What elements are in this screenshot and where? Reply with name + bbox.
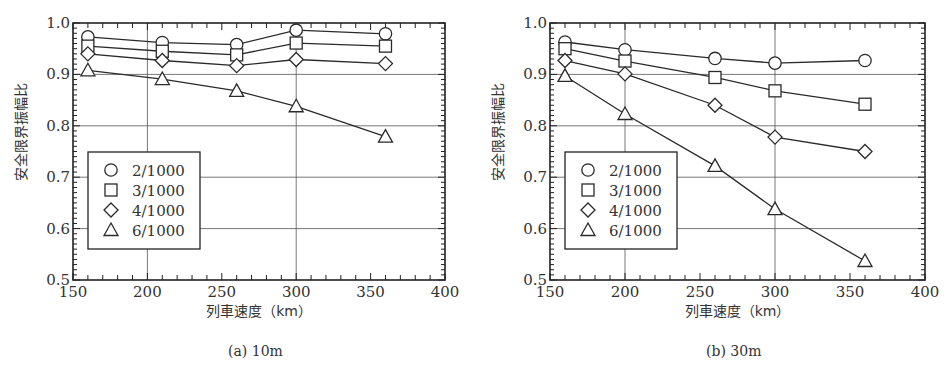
legend-label: 4/1000 [132,202,185,220]
circle-marker [619,44,631,56]
caption-b: (b) 30m [706,343,761,359]
triangle-marker [81,63,95,76]
diamond-marker [289,52,303,66]
y-tick-label: 0.7 [523,168,547,186]
diamond-marker [708,98,722,112]
diamond-marker [378,57,392,71]
triangle-marker [378,130,392,143]
chart-panel-b: 1502002503003504000.50.60.70.80.91.0列車速度… [476,0,951,384]
diamond-marker [768,130,782,144]
y-tick-label: 1.0 [46,14,70,32]
y-tick-label: 0.5 [523,271,547,289]
square-marker [709,71,721,83]
legend-label: 3/1000 [609,182,662,200]
y-tick-label: 0.8 [523,117,547,135]
x-tick-label: 200 [611,283,640,301]
y-tick-label: 0.5 [46,271,70,289]
x-tick-label: 400 [911,283,940,301]
circle-marker [859,54,871,66]
legend-square-icon [105,184,117,196]
series-2-1000 [82,24,392,51]
x-tick-label: 300 [282,283,311,301]
x-tick-label: 400 [431,283,460,301]
y-tick-label: 1.0 [523,14,547,32]
legend-label: 6/1000 [132,222,185,240]
y-tick-label: 0.7 [46,168,70,186]
legend-circle-icon [582,164,594,176]
legend-label: 4/1000 [609,202,662,220]
legend-square-icon [582,184,594,196]
legend-label: 3/1000 [132,182,185,200]
circle-marker [769,57,781,69]
square-marker [859,98,871,110]
square-marker [769,85,781,97]
legend-label: 6/1000 [609,222,662,240]
square-marker [290,37,302,49]
x-tick-label: 350 [356,283,385,301]
triangle-marker [768,202,782,215]
chart-svg: 1502002503003504000.50.60.70.80.91.0列車速度… [476,0,951,384]
x-tick-label: 300 [761,283,790,301]
legend-label: 2/1000 [609,162,662,180]
x-tick-label: 350 [836,283,865,301]
y-tick-label: 0.9 [523,65,547,83]
x-tick-label: 200 [133,283,162,301]
chart-panel-a: 1502002503003504000.50.60.70.80.91.0列車速度… [0,0,475,384]
diamond-marker [558,54,572,68]
chart-svg: 1502002503003504000.50.60.70.80.91.0列車速度… [0,0,475,384]
y-axis-label: 安全限界振幅比 [490,83,506,181]
x-tick-label: 250 [207,283,236,301]
circle-marker [709,52,721,64]
y-tick-label: 0.6 [46,220,70,238]
diamond-marker [618,67,632,81]
square-marker [379,40,391,52]
y-axis-label: 安全限界振幅比 [13,83,29,181]
caption-a: (a) 10m [228,343,283,359]
y-tick-label: 0.9 [46,65,70,83]
circle-marker [290,24,302,36]
legend: 2/10003/10004/10006/1000 [565,152,677,249]
triangle-marker [618,107,632,120]
x-axis-label: 列車速度（km） [685,303,791,319]
y-tick-label: 0.8 [46,117,70,135]
triangle-marker [708,159,722,172]
diamond-marker [858,145,872,159]
legend: 2/10003/10004/10006/1000 [88,152,200,249]
legend-circle-icon [105,164,117,176]
legend-label: 2/1000 [132,162,185,180]
triangle-marker [558,69,572,82]
y-tick-label: 0.6 [523,220,547,238]
series-2-1000 [559,36,871,69]
x-tick-label: 250 [686,283,715,301]
series-6-1000 [81,63,393,142]
triangle-marker [858,254,872,267]
square-marker [619,55,631,67]
series-line [88,70,386,136]
x-axis-label: 列車速度（km） [206,303,312,319]
circle-marker [379,28,391,40]
series-4-1000 [558,54,872,159]
